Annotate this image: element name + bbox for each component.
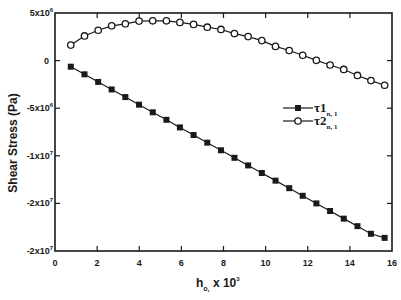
x-tick-label: 12 xyxy=(303,258,313,268)
x-tick-label: 2 xyxy=(95,258,100,268)
x-axis-title: ho, x 103 xyxy=(196,276,240,293)
data-point-circle xyxy=(177,19,183,25)
x-tick-label: 6 xyxy=(179,258,184,268)
data-point-square xyxy=(382,235,388,241)
data-point-square xyxy=(354,223,360,229)
data-point-square xyxy=(95,79,101,85)
y-tick-label: -5x106 xyxy=(27,102,54,113)
data-point-square xyxy=(327,208,333,214)
y-axis-title: Shear Stress (Pa) xyxy=(6,93,20,192)
y-axis-ticks: 5x1060-5x106-1x107-2x107-2x107 xyxy=(27,7,392,256)
data-point-circle xyxy=(341,66,347,72)
data-point-square xyxy=(81,71,87,77)
data-point-circle xyxy=(381,82,387,88)
data-point-circle xyxy=(108,23,114,29)
data-point-circle xyxy=(122,21,128,27)
data-point-circle xyxy=(313,57,319,63)
data-point-square xyxy=(122,94,128,100)
data-point-square xyxy=(259,170,265,176)
data-point-circle xyxy=(81,33,87,39)
data-point-circle xyxy=(354,72,360,78)
data-point-square xyxy=(218,147,224,153)
x-tick-label: 10 xyxy=(261,258,271,268)
data-point-circle xyxy=(259,37,265,43)
data-point-square xyxy=(245,162,251,168)
x-tick-label: 0 xyxy=(52,258,57,268)
data-point-circle xyxy=(204,24,210,30)
x-axis-title-main: h xyxy=(196,276,203,290)
data-point-square xyxy=(191,132,197,138)
data-point-circle xyxy=(95,27,101,33)
data-point-square xyxy=(286,185,292,191)
data-point-circle xyxy=(368,77,374,83)
legend: τ1n, 1τ2n, 1 xyxy=(283,100,338,131)
data-point-square xyxy=(368,231,374,237)
series-line xyxy=(71,21,385,85)
x-tick-label: 16 xyxy=(387,258,397,268)
y-tick-label: 5x106 xyxy=(30,7,54,18)
data-point-circle xyxy=(150,18,156,24)
data-point-square xyxy=(273,178,279,184)
series-1 xyxy=(68,64,388,241)
x-axis-title-sup: 3 xyxy=(236,276,240,282)
data-point-circle xyxy=(218,26,224,32)
data-point-square xyxy=(341,216,347,222)
data-point-square xyxy=(136,102,142,108)
data-point-circle xyxy=(286,47,292,53)
data-point-square xyxy=(231,155,237,161)
y-tick-label: 0 xyxy=(44,56,49,66)
data-point-square xyxy=(177,124,183,130)
data-point-circle xyxy=(272,43,278,49)
data-point-square xyxy=(109,86,115,92)
data-point-square xyxy=(68,64,74,70)
legend-square-icon xyxy=(295,105,301,111)
data-point-circle xyxy=(190,21,196,27)
shear-stress-chart: 0246810121416 5x1060-5x106-1x107-2x107-2… xyxy=(0,0,401,300)
data-point-circle xyxy=(299,52,305,58)
legend-circle-icon xyxy=(295,118,301,124)
x-tick-label: 8 xyxy=(221,258,226,268)
data-point-square xyxy=(150,109,156,115)
data-point-circle xyxy=(327,62,333,68)
y-tick-label: -2x107 xyxy=(27,245,54,256)
plot-border xyxy=(55,13,392,251)
data-point-circle xyxy=(68,42,74,48)
x-axis-ticks: 0246810121416 xyxy=(52,13,397,268)
series-2 xyxy=(68,18,388,89)
y-tick-label: -2x107 xyxy=(27,197,54,208)
data-point-square xyxy=(313,200,319,206)
plot-frame xyxy=(55,13,392,251)
series-layer xyxy=(68,18,388,241)
y-tick-label: -1x107 xyxy=(27,150,54,161)
data-point-square xyxy=(204,140,210,146)
data-point-square xyxy=(163,117,169,123)
data-point-circle xyxy=(136,18,142,24)
x-axis-title-rest: x 10 xyxy=(210,276,237,290)
data-point-square xyxy=(300,193,306,199)
legend-item-1: τ1n, 1 xyxy=(283,100,338,118)
data-point-circle xyxy=(245,33,251,39)
data-point-circle xyxy=(163,18,169,24)
x-tick-label: 4 xyxy=(137,258,142,268)
x-tick-label: 14 xyxy=(345,258,355,268)
data-point-circle xyxy=(231,30,237,36)
series-line xyxy=(71,67,385,238)
